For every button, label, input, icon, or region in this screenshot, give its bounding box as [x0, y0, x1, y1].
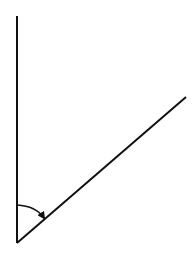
- angle-diagram: [0, 0, 192, 260]
- diagonal-ray: [17, 97, 186, 243]
- angle-arc-arrow-icon: [17, 205, 44, 218]
